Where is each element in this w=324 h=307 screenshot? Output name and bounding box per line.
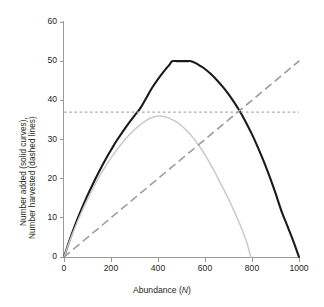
x-axis-title-close: ): [188, 285, 191, 295]
x-axis-title-text: Abundance (: [133, 285, 182, 295]
chart-figure: Number added (solid curves), Number harv…: [0, 0, 324, 307]
x-axis-title: Abundance (N): [0, 285, 324, 295]
chart-plot-area: [0, 0, 324, 307]
